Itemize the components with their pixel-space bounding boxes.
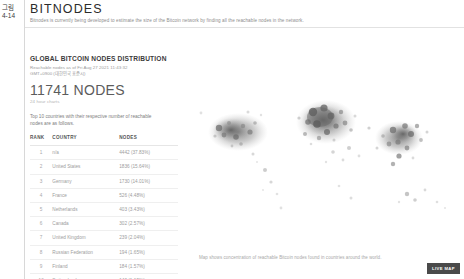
table-row[interactable]: 2 United States 1836 (15.64%) bbox=[30, 160, 178, 174]
cell-nodes: 184 (1.57%) bbox=[119, 259, 178, 273]
cell-country[interactable]: United States bbox=[52, 160, 119, 174]
cell-nodes: 403 (3.43%) bbox=[119, 202, 178, 216]
cell-country[interactable]: Russian Federation bbox=[52, 245, 119, 259]
live-map-button[interactable]: LIVE MAP bbox=[427, 263, 460, 274]
map-cluster-oceania bbox=[398, 189, 446, 210]
cell-country[interactable]: n/a bbox=[52, 146, 119, 160]
table-row[interactable]: 3 Germany 1730 (14.01%) bbox=[30, 174, 178, 188]
cell-nodes: 4442 (37.83%) bbox=[119, 146, 178, 160]
table-row[interactable]: 7 United Kingdom 239 (2.04%) bbox=[30, 231, 178, 245]
cell-country[interactable]: France bbox=[52, 188, 119, 202]
table-row[interactable]: 5 Netherlands 403 (3.43%) bbox=[30, 202, 178, 216]
map-cluster-south-america bbox=[252, 153, 283, 210]
cell-country[interactable]: Switzerland bbox=[52, 273, 119, 279]
cell-rank: 7 bbox=[30, 231, 52, 245]
cell-country[interactable]: Finland bbox=[52, 259, 119, 273]
cell-rank: 6 bbox=[30, 217, 52, 231]
node-count-headline: 11741 NODES bbox=[30, 83, 190, 98]
table-row[interactable]: 1 n/a 4442 (37.83%) bbox=[30, 146, 178, 160]
cell-nodes: 239 (2.04%) bbox=[119, 231, 178, 245]
cell-country[interactable]: Canada bbox=[52, 217, 119, 231]
cell-rank: 8 bbox=[30, 245, 52, 259]
table-header-row: RANK COUNTRY NODES bbox=[30, 134, 178, 146]
site-header: BITNODES Bitnodes is currently being dev… bbox=[25, 0, 464, 28]
figure-label: 그림 4-14 bbox=[2, 4, 22, 20]
cell-rank: 3 bbox=[30, 174, 52, 188]
page-body: GLOBAL BITCOIN NODES DISTRIBUTION Reacha… bbox=[25, 28, 464, 279]
page-title: GLOBAL BITCOIN NODES DISTRIBUTION bbox=[30, 54, 190, 63]
cell-rank: 10 bbox=[30, 273, 52, 279]
table-row[interactable]: 4 France 526 (4.48%) bbox=[30, 188, 178, 202]
cell-rank: 5 bbox=[30, 202, 52, 216]
column-header-nodes: NODES bbox=[119, 134, 178, 146]
map-cluster-europe bbox=[296, 100, 357, 145]
cell-nodes: 526 (4.48%) bbox=[119, 188, 178, 202]
world-map-canvas[interactable] bbox=[193, 90, 464, 250]
table-row[interactable]: 6 Canada 302 (2.57%) bbox=[30, 217, 178, 231]
cell-rank: 4 bbox=[30, 188, 52, 202]
map-cluster-africa bbox=[325, 146, 361, 200]
top-countries-intro: Top 10 countries with their respective n… bbox=[30, 113, 160, 127]
table-row[interactable]: 8 Russian Federation 194 (1.65%) bbox=[30, 245, 178, 259]
bitnodes-screenshot: BITNODES Bitnodes is currently being dev… bbox=[24, 0, 464, 279]
map-cluster-north-america bbox=[200, 111, 268, 152]
as-of-timestamp-line2: GMT+0900 (대한민국 표준시) bbox=[30, 71, 190, 77]
cell-nodes: 194 (1.65%) bbox=[119, 245, 178, 259]
top-countries-table: RANK COUNTRY NODES 1 n/a 4442 (37.83%) 2… bbox=[30, 134, 178, 279]
24-hour-charts-link[interactable]: 24 hour charts bbox=[30, 99, 190, 105]
cell-country[interactable]: Germany bbox=[52, 174, 119, 188]
cell-rank: 9 bbox=[30, 259, 52, 273]
cell-country[interactable]: United Kingdom bbox=[52, 231, 119, 245]
brand-logo[interactable]: BITNODES bbox=[30, 3, 458, 16]
nodes-distribution-panel: GLOBAL BITCOIN NODES DISTRIBUTION Reacha… bbox=[30, 54, 190, 279]
table-row[interactable]: 9 Finland 184 (1.57%) bbox=[30, 259, 178, 273]
column-header-rank: RANK bbox=[30, 134, 52, 146]
brand-tagline: Bitnodes is currently being developed to… bbox=[30, 18, 458, 24]
map-caption: Map shows concentration of reachable Bit… bbox=[199, 254, 381, 261]
table-row[interactable]: 10 Switzerland 140 (1.19%) bbox=[30, 273, 178, 279]
map-cluster-asia bbox=[367, 121, 428, 166]
figure-label-line1: 그림 bbox=[2, 4, 22, 12]
cell-rank: 2 bbox=[30, 160, 52, 174]
cell-nodes: 140 (1.19%) bbox=[119, 273, 178, 279]
cell-nodes: 1730 (14.01%) bbox=[119, 174, 178, 188]
cell-nodes: 1836 (15.64%) bbox=[119, 160, 178, 174]
column-header-country: COUNTRY bbox=[52, 134, 119, 146]
world-map-panel: Map shows concentration of reachable Bit… bbox=[193, 32, 464, 279]
cell-nodes: 302 (2.57%) bbox=[119, 217, 178, 231]
world-map-svg bbox=[193, 90, 464, 250]
cell-country[interactable]: Netherlands bbox=[52, 202, 119, 216]
cell-rank: 1 bbox=[30, 146, 52, 160]
figure-label-line2: 4-14 bbox=[2, 12, 22, 20]
